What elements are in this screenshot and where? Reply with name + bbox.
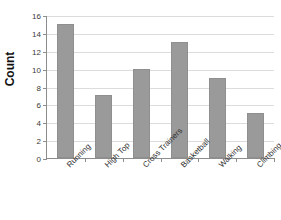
y-tick-label: 12: [32, 47, 41, 56]
y-tick-label: 16: [32, 12, 41, 21]
plot-area: 1614121086420: [46, 16, 274, 159]
y-tick-label: 14: [32, 29, 41, 38]
y-tick-label: 10: [32, 65, 41, 74]
bar[interactable]: [133, 69, 150, 158]
bar-slot: [236, 16, 274, 158]
x-label-slot: Running: [46, 161, 84, 219]
bar[interactable]: [247, 113, 264, 158]
bar[interactable]: [209, 78, 226, 158]
y-tick-label: 0: [37, 155, 41, 164]
bar-slot: [47, 16, 85, 158]
bar[interactable]: [57, 24, 74, 158]
y-tick-label: 4: [37, 119, 41, 128]
x-label-slot: Cross Trainers: [122, 161, 160, 219]
x-label-slot: High Top: [84, 161, 122, 219]
bar[interactable]: [95, 95, 112, 158]
x-tick-mark: [274, 158, 275, 162]
x-label-slot: Climbing: [236, 161, 274, 219]
y-axis-title: Count: [3, 39, 17, 99]
bar-chart: Count 1614121086420 RunningHigh TopCross…: [0, 0, 281, 220]
chart-title: [0, 0, 281, 2]
bar-slot: [123, 16, 161, 158]
x-label-slot: Walking: [198, 161, 236, 219]
y-tick-mark: [43, 159, 47, 160]
bar-series: [47, 16, 274, 158]
x-axis-labels: RunningHigh TopCross TrainersBasketballW…: [46, 161, 274, 219]
y-tick-label: 6: [37, 101, 41, 110]
bar-slot: [85, 16, 123, 158]
y-tick-label: 2: [37, 137, 41, 146]
x-label-slot: Basketball: [160, 161, 198, 219]
y-tick-label: 8: [37, 83, 41, 92]
